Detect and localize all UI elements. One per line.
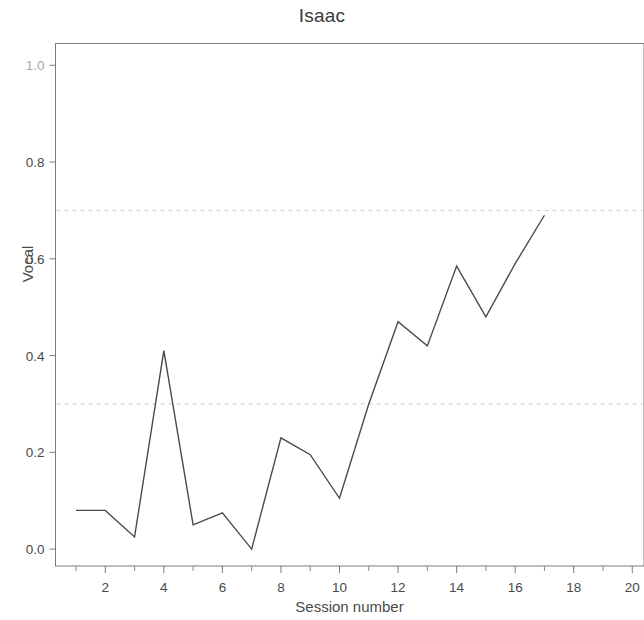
y-tick-label: 0.2: [26, 445, 45, 460]
x-tick-label: 14: [449, 580, 465, 595]
y-tick-label: 1.0: [26, 58, 45, 73]
x-axis-label: Session number: [295, 598, 403, 615]
y-tick-label: 0.0: [26, 542, 45, 557]
x-tick-label: 16: [508, 580, 523, 595]
x-tick-label: 18: [566, 580, 581, 595]
x-axis-ticks: 2468101214161820: [76, 566, 640, 595]
x-tick-label: 12: [391, 580, 406, 595]
x-tick-label: 20: [625, 580, 640, 595]
y-tick-label: 0.8: [26, 155, 45, 170]
y-axis-label-wrapper: Vocal: [19, 224, 37, 304]
x-tick-label: 4: [160, 580, 168, 595]
x-tick-label: 8: [277, 580, 285, 595]
vocal-session-line-chart: Isaac 0.00.20.40.60.81.0 246810121416182…: [0, 0, 644, 620]
plot-area-svg: 0.00.20.40.60.81.0 2468101214161820: [0, 0, 644, 620]
x-axis-label-wrapper: Session number: [55, 598, 644, 616]
y-axis-ticks: 0.00.20.40.60.81.0: [26, 58, 56, 557]
plot-frame: [56, 44, 644, 567]
y-axis-label: Vocal: [19, 246, 36, 283]
y-tick-label: 0.4: [26, 349, 45, 364]
x-tick-label: 2: [102, 580, 110, 595]
reference-lines: [57, 210, 644, 404]
x-tick-label: 10: [332, 580, 347, 595]
vocal-data-line: [76, 215, 544, 549]
x-tick-label: 6: [219, 580, 227, 595]
